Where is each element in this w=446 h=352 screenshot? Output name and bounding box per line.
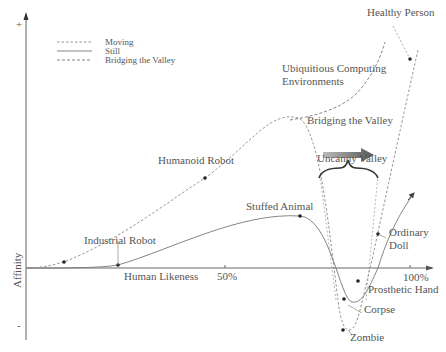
label-ordinary-line1: Ordinary	[389, 226, 429, 238]
point-corpse	[342, 297, 346, 301]
label-ubiquitous-line1: Ubiquitious Computing	[282, 62, 387, 74]
legend-bridging-label: Bridging the Valley	[105, 55, 176, 65]
label-ordinary-line2: Doll	[389, 239, 409, 251]
legend: Moving Still Bridging the Valley	[57, 37, 176, 65]
y-plus-label: +	[16, 18, 22, 30]
point-zombie	[341, 328, 345, 332]
valley-guide-left	[320, 175, 336, 300]
label-stuffed-animal: Stuffed Animal	[246, 200, 313, 212]
label-ubiquitous-line2: Environments	[282, 75, 344, 87]
label-prosthetic-hand: Prosthetic Hand	[368, 283, 439, 295]
label-humanoid-robot: Humanoid Robot	[158, 154, 234, 166]
point-stuffed-animal	[298, 214, 302, 218]
label-industrial-robot: Industrial Robot	[84, 234, 156, 246]
uncanny-valley-chart: + - Affinity Human Likeness 50% 100% Mov…	[0, 0, 446, 352]
x-tick-50: 50%	[217, 270, 237, 282]
x-tick-100: 100%	[403, 271, 429, 283]
point-moving-start	[62, 260, 66, 264]
x-axis-label: Human Likeness	[124, 270, 198, 282]
label-zombie: Zombie	[350, 331, 384, 343]
y-minus-label: -	[17, 319, 21, 331]
y-axis	[24, 12, 29, 340]
y-axis-label: Affinity	[11, 252, 23, 288]
still-curve	[26, 196, 412, 302]
moving-curve	[26, 50, 418, 330]
label-corpse: Corpse	[364, 303, 395, 315]
point-prosthetic-hand	[356, 279, 360, 283]
label-uncanny-valley: Uncanny Valley	[317, 152, 388, 164]
point-humanoid-robot	[203, 176, 207, 180]
label-healthy-person: Healthy Person	[367, 6, 435, 18]
label-bridging-the-valley: Bridging the Valley	[307, 114, 393, 126]
